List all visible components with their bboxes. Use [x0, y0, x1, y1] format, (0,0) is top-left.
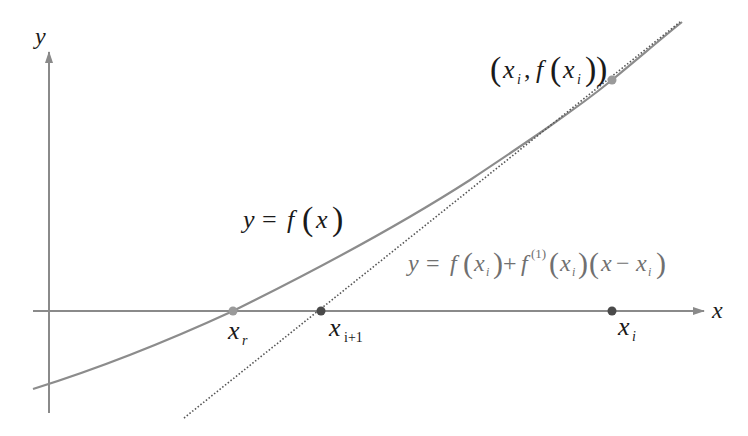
svg-text:): ) [656, 246, 666, 280]
svg-text:(1): (1) [531, 246, 546, 261]
tangent-point [608, 76, 617, 85]
svg-text:f: f [450, 250, 460, 276]
svg-text:x: x [635, 250, 647, 276]
svg-text:(: ( [302, 200, 313, 238]
svg-text:): ) [596, 50, 607, 88]
svg-text:x: x [227, 316, 240, 345]
next-iterate-label: x i+1 [328, 313, 363, 345]
svg-text:f: f [521, 250, 531, 276]
svg-text:): ) [493, 246, 503, 280]
svg-text:(: ( [549, 246, 559, 280]
svg-text:i: i [517, 72, 521, 87]
svg-text:i: i [632, 329, 636, 344]
svg-text:(: ( [490, 50, 501, 88]
svg-text:,: , [524, 55, 531, 84]
svg-text:): ) [585, 50, 596, 88]
svg-text:r: r [242, 333, 248, 348]
tangent-point-label: ( x i , f ( x i ) ) [490, 50, 607, 88]
svg-text:i: i [572, 265, 575, 279]
next-iterate-point [317, 307, 326, 316]
svg-text:f: f [287, 205, 298, 234]
svg-text:x: x [617, 312, 630, 341]
newton-method-diagram: y x ( x i , f ( x i ) ) y = f ( x ) y = … [0, 0, 748, 436]
svg-text:i+1: i+1 [344, 330, 363, 345]
tangent-equation-label: y = f ( x i ) + f (1) ( x i ) ( x − x i … [406, 246, 666, 280]
svg-text:(: ( [550, 50, 561, 88]
svg-text:): ) [578, 246, 588, 280]
svg-text:(: ( [589, 246, 599, 280]
svg-text:=: = [262, 205, 277, 234]
svg-text:): ) [332, 200, 343, 238]
svg-text:i: i [486, 265, 489, 279]
y-axis-label: y [33, 23, 46, 49]
svg-text:y: y [406, 250, 419, 276]
svg-text:x: x [315, 205, 328, 234]
svg-text:x: x [502, 55, 515, 84]
svg-text:x: x [562, 55, 575, 84]
svg-text:x: x [559, 250, 571, 276]
svg-text:x: x [473, 250, 485, 276]
svg-text:y: y [240, 205, 255, 234]
root-label-xr: x r [227, 316, 248, 348]
svg-text:−: − [616, 250, 630, 276]
svg-text:f: f [536, 55, 547, 84]
svg-text:(: ( [463, 246, 473, 280]
svg-text:+: + [503, 250, 517, 276]
svg-text:x: x [600, 250, 612, 276]
current-iterate-point [608, 307, 617, 316]
svg-text:x: x [328, 313, 341, 342]
svg-text:i: i [577, 72, 581, 87]
root-point-xr [229, 307, 238, 316]
curve-equation-label: y = f ( x ) [240, 200, 343, 238]
svg-text:=: = [426, 250, 440, 276]
current-iterate-label: x i [617, 312, 636, 344]
x-axis-label: x [711, 297, 723, 323]
svg-text:i: i [648, 265, 651, 279]
